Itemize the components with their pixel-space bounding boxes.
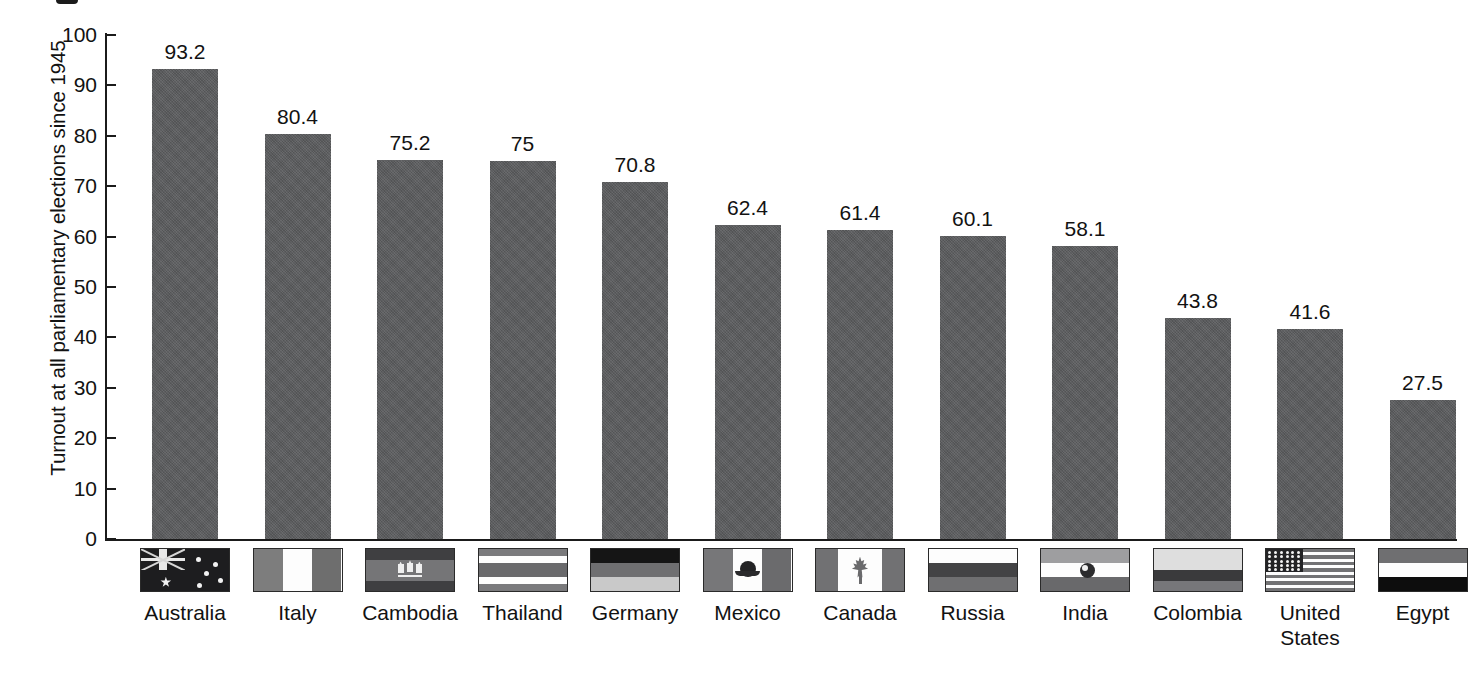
bar xyxy=(1052,246,1118,539)
thailand-flag xyxy=(478,548,568,592)
y-axis-tick xyxy=(107,336,116,338)
india-flag xyxy=(1040,548,1130,592)
x-axis-label-line: States xyxy=(1240,625,1380,650)
bar xyxy=(602,182,668,539)
bar-value-label: 75 xyxy=(463,133,583,154)
bar-value-label: 43.8 xyxy=(1138,290,1258,311)
bar-value-label: 93.2 xyxy=(125,41,245,62)
egypt-flag xyxy=(1378,548,1468,592)
bar xyxy=(265,134,331,539)
bar-value-label: 80.4 xyxy=(238,106,358,127)
bar xyxy=(490,161,556,539)
y-axis-tick xyxy=(107,34,116,36)
united-states-flag xyxy=(1265,548,1355,592)
italy-flag xyxy=(253,548,343,592)
y-axis-tick xyxy=(107,185,116,187)
bar xyxy=(827,230,893,539)
flags-row xyxy=(105,548,1457,594)
russia-flag xyxy=(928,548,1018,592)
bar-value-label: 75.2 xyxy=(350,132,470,153)
bar xyxy=(1277,329,1343,539)
x-axis-label-line: Egypt xyxy=(1353,600,1472,625)
colombia-flag xyxy=(1153,548,1243,592)
x-axis-baseline xyxy=(105,539,1457,541)
y-axis-tick xyxy=(107,135,116,137)
bar xyxy=(940,236,1006,539)
bar-value-label: 60.1 xyxy=(913,208,1033,229)
bar-value-label: 41.6 xyxy=(1250,301,1370,322)
plot-area: 1009080706050403020100 93.280.475.27570.… xyxy=(105,33,1457,541)
australia-flag xyxy=(140,548,230,592)
y-axis-tick xyxy=(107,387,116,389)
bar-value-label: 27.5 xyxy=(1363,372,1472,393)
y-axis-tick xyxy=(107,236,116,238)
bar xyxy=(1165,318,1231,539)
mexico-flag xyxy=(703,548,793,592)
bar-value-label: 62.4 xyxy=(688,197,808,218)
y-axis-title: Turnout at all parliamentary elections s… xyxy=(46,0,70,518)
x-axis-label-egypt: Egypt xyxy=(1353,600,1472,625)
bar xyxy=(377,160,443,539)
canada-flag xyxy=(815,548,905,592)
y-axis-tick xyxy=(107,538,116,540)
y-axis-tick xyxy=(107,488,116,490)
bar-value-label: 61.4 xyxy=(800,202,920,223)
y-axis-tick xyxy=(107,286,116,288)
bar xyxy=(1390,400,1456,539)
bar xyxy=(715,225,781,539)
germany-flag xyxy=(590,548,680,592)
bar-value-label: 58.1 xyxy=(1025,218,1145,239)
bar-value-label: 70.8 xyxy=(575,154,695,175)
bar xyxy=(152,69,218,539)
y-axis-tick xyxy=(107,437,116,439)
x-axis-category-labels: AustraliaItalyCambodiaThailandGermanyMex… xyxy=(105,600,1457,664)
y-axis-tick xyxy=(107,84,116,86)
cambodia-flag xyxy=(365,548,455,592)
